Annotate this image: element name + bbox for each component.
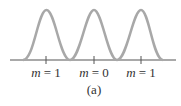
order-label-center: m = 0: [79, 65, 109, 81]
order-label-left: m = 1: [31, 65, 61, 81]
figure-caption: (a): [87, 82, 101, 98]
intensity-curve: [23, 10, 163, 60]
order-label-right: m = 1: [126, 65, 156, 81]
